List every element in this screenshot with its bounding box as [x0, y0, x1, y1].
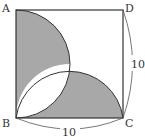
- vertex-label-d: D: [125, 2, 134, 15]
- measure-bottom-side: 10: [62, 126, 76, 137]
- vertex-label-a: A: [1, 2, 11, 15]
- measure-right-side: 10: [131, 58, 145, 71]
- vertex-label-c: C: [125, 117, 133, 130]
- geometry-diagram: A D B C 10 10: [0, 0, 145, 137]
- vertex-label-b: B: [2, 117, 10, 130]
